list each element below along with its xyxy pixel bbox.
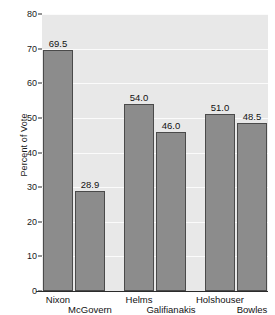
y-axis-tick-mark [38,117,42,118]
bar: 51.0 [205,114,235,291]
y-axis-title: Percent of Vote [19,75,29,215]
y-axis-tick-label: 70 [27,44,37,54]
y-axis-tick-mark [38,152,42,153]
y-axis-tick-label: 40 [27,148,37,158]
bar: 46.0 [156,132,186,291]
x-axis-category-label: Nixon [46,294,70,305]
bar: 69.5 [43,50,73,291]
gridline [42,83,268,84]
x-axis-category-label: Bowles [237,304,268,315]
y-axis-tick-label: 80 [27,9,37,19]
y-axis-tick-mark [38,221,42,222]
y-axis-tick-label: 50 [27,113,37,123]
x-axis-category-label: Galifianakis [146,304,195,315]
y-axis-tick-label: 60 [27,78,37,88]
bar-value-label: 69.5 [49,38,68,49]
bar-value-label: 46.0 [162,120,181,131]
y-axis-tick-mark [38,187,42,188]
gridline [42,14,268,15]
bar: 28.9 [75,191,105,291]
bar-value-label: 51.0 [211,102,230,113]
y-axis-tick-mark [38,48,42,49]
bar: 48.5 [237,123,267,291]
y-axis-tick-mark [38,256,42,257]
y-axis-tick-label: 10 [27,251,37,261]
x-axis-line [36,291,268,292]
y-axis-tick-label: 30 [27,182,37,192]
y-axis-tick-mark [38,14,42,15]
x-axis-category-label: McGovern [68,304,112,315]
bar-value-label: 28.9 [81,179,100,190]
bar-value-label: 54.0 [130,92,149,103]
y-axis-tick-mark [38,83,42,84]
y-axis-tick-label: 20 [27,217,37,227]
gridline [42,49,268,50]
bar-chart: Percent of Vote 01020304050607080 69.528… [0,0,275,315]
plot-area: 01020304050607080 69.528.954.046.051.048… [42,14,268,291]
bar: 54.0 [124,104,154,291]
bar-value-label: 48.5 [243,111,262,122]
